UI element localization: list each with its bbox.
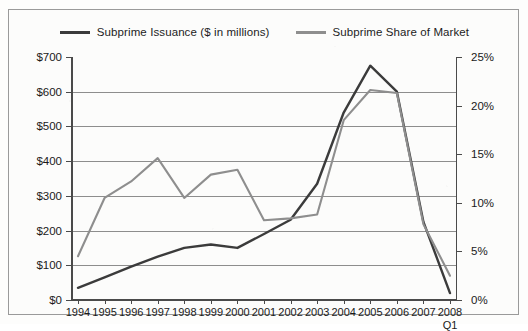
y-axis-left-label: $700 (6, 51, 62, 63)
data-line-share (78, 90, 450, 276)
x-axis-tick (370, 300, 371, 304)
x-axis-tick (237, 300, 238, 304)
y-axis-right-tick (457, 203, 462, 204)
y-axis-right-tick (457, 300, 462, 301)
y-axis-left-label: $0 (6, 294, 62, 306)
y-axis-right-label: 25% (471, 51, 519, 63)
x-axis-tick (450, 300, 451, 304)
x-axis-tick (423, 300, 424, 304)
x-axis-tick (291, 300, 292, 304)
y-axis-left-tick (66, 161, 71, 162)
y-axis-right-tick (457, 154, 462, 155)
y-axis-left-tick (66, 196, 71, 197)
legend-label-issuance: Subprime Issuance ($ in millions) (97, 26, 270, 38)
x-axis-tick (344, 300, 345, 304)
y-axis-right-label: 5% (471, 245, 519, 257)
x-axis-tick (397, 300, 398, 304)
x-axis-tick (211, 300, 212, 304)
legend-swatch-issuance-icon (60, 31, 90, 34)
y-axis-right-tick (457, 57, 462, 58)
legend-item-issuance: Subprime Issuance ($ in millions) (60, 26, 270, 38)
y-axis-right-tick (457, 251, 462, 252)
y-axis-left-label: $400 (6, 155, 62, 167)
legend-item-share: Subprime Share of Market (296, 26, 470, 38)
x-axis-tick (158, 300, 159, 304)
y-axis-left-tick (66, 126, 71, 127)
chart-lines (71, 57, 457, 300)
x-axis-tick (131, 300, 132, 304)
x-axis-tick (78, 300, 79, 304)
x-axis-label-sub: Q1 (430, 319, 470, 331)
x-axis-tick (184, 300, 185, 304)
y-axis-left-label: $600 (6, 86, 62, 98)
y-axis-left-tick (66, 300, 71, 301)
chart-legend: Subprime Issuance ($ in millions) Subpri… (9, 26, 520, 38)
legend-label-share: Subprime Share of Market (333, 26, 470, 38)
chart-frame: Subprime Issuance ($ in millions) Subpri… (8, 9, 519, 315)
y-axis-right-label: 20% (471, 100, 519, 112)
y-axis-right-label: 10% (471, 197, 519, 209)
y-axis-left-label: $500 (6, 120, 62, 132)
y-axis-right-label: 0% (471, 294, 519, 306)
y-axis-left-label: $200 (6, 225, 62, 237)
y-axis-left-tick (66, 265, 71, 266)
x-axis-tick (317, 300, 318, 304)
x-axis-label: 2008Q1 (430, 306, 470, 331)
legend-swatch-share-icon (296, 31, 326, 34)
x-axis-tick (264, 300, 265, 304)
y-axis-right-tick (457, 106, 462, 107)
y-axis-left-label: $300 (6, 190, 62, 202)
x-axis-tick (105, 300, 106, 304)
y-axis-left-tick (66, 57, 71, 58)
y-axis-left-tick (66, 231, 71, 232)
y-axis-left-label: $100 (6, 259, 62, 271)
plot-area (71, 57, 457, 300)
y-axis-left-tick (66, 92, 71, 93)
y-axis-right-label: 15% (471, 148, 519, 160)
